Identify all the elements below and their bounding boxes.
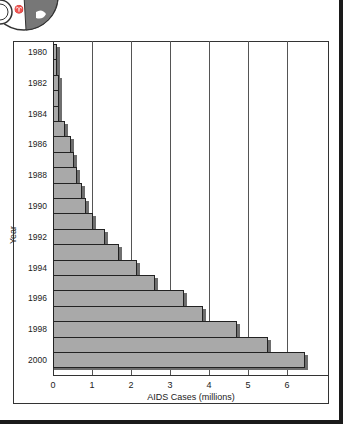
bar-1995 xyxy=(53,275,155,291)
gridline xyxy=(287,41,288,375)
bar-1983 xyxy=(53,90,59,106)
x-tick-label: 0 xyxy=(50,380,55,390)
bar-1993 xyxy=(53,244,119,260)
y-tick-label: 1984 xyxy=(11,109,47,119)
bar-1991 xyxy=(53,213,93,229)
bar-1989 xyxy=(53,183,82,199)
bar-1986 xyxy=(53,136,71,152)
y-tick-label: 1982 xyxy=(11,78,47,88)
gridline xyxy=(248,41,249,375)
bar-1985 xyxy=(53,121,65,137)
bar-1999 xyxy=(53,337,268,353)
x-tick-label: 6 xyxy=(284,380,289,390)
y-tick-label: 1988 xyxy=(11,170,47,180)
y-tick-label: 1986 xyxy=(11,139,47,149)
bar-1998 xyxy=(53,321,237,337)
bar-1982 xyxy=(53,75,59,91)
bar-1992 xyxy=(53,229,105,245)
outer-border-right xyxy=(339,0,343,424)
x-tick-label: 4 xyxy=(206,380,211,390)
svg-text:♈: ♈ xyxy=(14,4,24,14)
bar-1988 xyxy=(53,167,77,183)
bar-1984 xyxy=(53,106,59,122)
globe-icon: ♈ xyxy=(0,0,62,32)
bar-1997 xyxy=(53,306,203,322)
y-tick-label: 1990 xyxy=(11,201,47,211)
bar-1980 xyxy=(53,44,57,60)
plot-area xyxy=(53,41,329,376)
y-tick-label: 1998 xyxy=(11,324,47,334)
x-tick-label: 2 xyxy=(128,380,133,390)
x-tick-label: 1 xyxy=(89,380,94,390)
bar-1996 xyxy=(53,290,184,306)
y-tick-label: 1994 xyxy=(11,263,47,273)
y-tick-label: 1996 xyxy=(11,293,47,303)
bar-1994 xyxy=(53,260,137,276)
bar-2000 xyxy=(53,352,305,368)
bar-1981 xyxy=(53,59,57,75)
x-axis-title: AIDS Cases (millions) xyxy=(53,392,329,402)
x-tick-label: 5 xyxy=(245,380,250,390)
bar-1990 xyxy=(53,198,86,214)
outer-border-bottom xyxy=(0,420,343,424)
y-tick-label: 1992 xyxy=(11,232,47,242)
x-tick-label: 3 xyxy=(167,380,172,390)
y-tick-label: 2000 xyxy=(11,355,47,365)
y-tick-label: 1980 xyxy=(11,47,47,57)
bar-1987 xyxy=(53,152,74,168)
